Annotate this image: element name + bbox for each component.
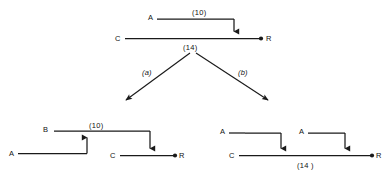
child-a-node-label-r: R [179,152,185,160]
child-b-node-label-a1: A [220,128,225,136]
child-a-node-r-dot [173,153,177,157]
parent-weight-label-bottom: (14) [183,44,198,52]
branch-label-b: (b) [238,69,248,77]
child-network-b [229,133,374,158]
child-a-node-label-b: B [43,126,48,134]
branch-label-a: (a) [142,69,152,77]
child-b-node-r-dot [370,153,374,157]
parent-weight-label-top: (10) [192,9,207,17]
child-b-node-label-a2: A [299,128,304,136]
branch-arrow-a [126,53,190,100]
child-a-node-label-c: C [110,152,116,160]
parent-node-label-c: C [115,35,121,43]
child-b-weight-label: (14 ) [297,162,314,170]
child-network-a [18,131,177,158]
diagram-root: A (10) C R (14) (a) (b) B (10) A C R A A… [0,0,384,180]
child-a-weight-label: (10) [89,122,104,130]
parent-node-r-dot [259,36,263,40]
branch-arrow-b [196,53,268,100]
parent-node-label-r: R [266,35,272,43]
child-b-node-label-r: R [376,152,382,160]
child-a-node-label-a: A [9,150,14,158]
diagram-canvas [0,0,384,180]
parent-network [125,19,263,41]
child-b-node-label-c: C [229,152,235,160]
parent-node-label-a: A [148,14,153,22]
